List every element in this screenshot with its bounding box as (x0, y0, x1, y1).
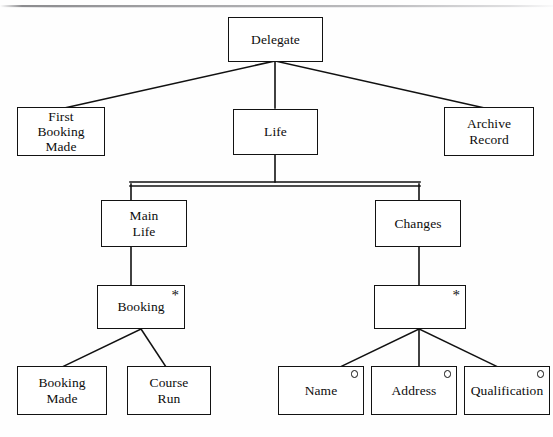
selection-marker-icon (351, 370, 359, 378)
node-archive-record[interactable]: Archive Record (444, 107, 534, 156)
node-archive-record-label: Archive Record (464, 116, 514, 146)
node-name-label: Name (302, 383, 341, 398)
edge-delegate-archive-record (275, 61, 485, 108)
scan-artifact-line-faint (0, 7, 553, 8)
node-main-life[interactable]: Main Life (101, 200, 187, 247)
node-change-item[interactable]: * (374, 285, 466, 329)
iteration-marker-icon: * (171, 288, 179, 303)
structure-diagram-canvas: Delegate First Booking Made Life Archive… (0, 0, 553, 437)
node-life[interactable]: Life (233, 109, 318, 155)
edge-booking-booking-made (62, 329, 141, 367)
node-qualification[interactable]: Qualification (464, 366, 550, 415)
edge-change-item-qualification (419, 329, 498, 367)
node-booking-made[interactable]: Booking Made (17, 366, 107, 415)
edge-change-item-name (340, 329, 419, 367)
node-qualification-label: Qualification (468, 383, 547, 398)
node-first-booking-made-label: First Booking Made (34, 109, 87, 154)
selection-marker-icon (444, 370, 452, 378)
node-address[interactable]: Address (371, 366, 457, 415)
iteration-marker-icon: * (452, 288, 460, 303)
node-delegate-label: Delegate (248, 32, 303, 47)
node-main-life-label: Main Life (127, 208, 162, 238)
node-changes-label: Changes (391, 216, 444, 231)
node-booking-label: Booking (114, 299, 167, 314)
node-address-label: Address (389, 383, 440, 398)
node-name[interactable]: Name (278, 366, 364, 415)
node-life-label: Life (261, 124, 290, 139)
node-course-run[interactable]: Course Run (127, 366, 211, 415)
edge-delegate-first-booking-made (64, 61, 275, 108)
edge-booking-course-run (141, 329, 166, 367)
node-first-booking-made[interactable]: First Booking Made (17, 107, 105, 156)
node-delegate[interactable]: Delegate (228, 17, 323, 62)
node-course-run-label: Course Run (147, 375, 192, 405)
node-booking-made-label: Booking Made (35, 375, 88, 405)
node-booking[interactable]: Booking * (97, 285, 185, 329)
selection-marker-icon (537, 370, 545, 378)
node-changes[interactable]: Changes (375, 200, 461, 247)
